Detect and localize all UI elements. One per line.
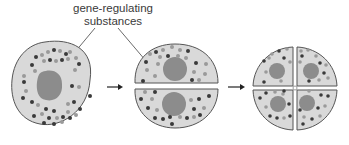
nucleus bbox=[270, 96, 286, 112]
stage-two-cell bbox=[135, 44, 218, 128]
nucleus bbox=[162, 92, 186, 116]
stage-one-cell bbox=[12, 41, 92, 126]
stage-four-cell bbox=[253, 47, 337, 130]
nucleus bbox=[299, 95, 315, 111]
nucleus bbox=[303, 63, 319, 79]
nucleus bbox=[37, 71, 62, 101]
nucleus bbox=[269, 63, 285, 79]
center-gap bbox=[293, 86, 297, 90]
arrow-icon bbox=[228, 84, 245, 90]
nucleus bbox=[163, 57, 187, 81]
arrow-icon bbox=[107, 84, 123, 90]
cell-division-diagram bbox=[0, 0, 349, 145]
